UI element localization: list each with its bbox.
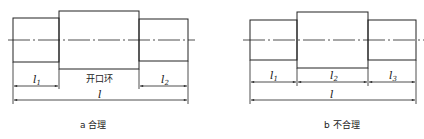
panel-b-label-l1: l1 [270, 69, 278, 83]
panel-a-label-total: l [98, 88, 102, 101]
panel-b-shaft [243, 12, 424, 68]
panel-a-split-ring-note: 开口环 [86, 74, 113, 84]
panel-a-shaft [8, 11, 195, 69]
shaft-diagrams: l1 开口环 l2 l l1 l2 l3 l [0, 0, 424, 139]
panel-b-label-l3: l3 [389, 69, 398, 83]
panel-b-label-l2: l2 [330, 69, 339, 83]
panel-a-label-l1: l1 [33, 73, 41, 87]
panel-b-label-total: l [330, 88, 334, 101]
panel-a-label-l2: l2 [161, 73, 170, 87]
panel-b-caption: b 不合理 [324, 118, 360, 131]
panel-a-caption: a 合理 [80, 118, 106, 131]
